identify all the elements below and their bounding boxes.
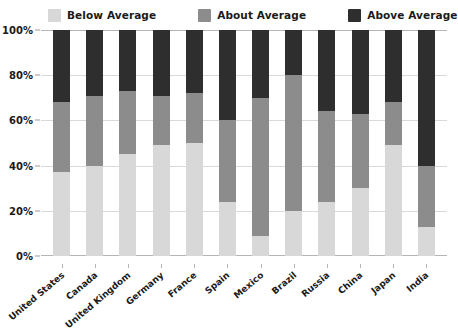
bar-segment-below-average[interactable]	[318, 202, 335, 256]
bar-segment-about-average[interactable]	[352, 114, 369, 189]
bar-segment-about-average[interactable]	[252, 98, 269, 236]
bar-segment-about-average[interactable]	[53, 102, 70, 172]
bar-segment-below-average[interactable]	[385, 145, 402, 256]
bar-segment-about-average[interactable]	[285, 75, 302, 211]
x-axis-label-column: France	[178, 268, 211, 334]
bar-column[interactable]	[377, 30, 410, 256]
chart-legend: Below Average About Average Above Averag…	[48, 4, 444, 26]
bar-segment-below-average[interactable]	[186, 143, 203, 256]
bar-segment-above-average[interactable]	[418, 30, 435, 166]
legend-item-below-average: Below Average	[48, 9, 156, 22]
y-axis-tick-mark	[35, 210, 40, 211]
bar-segment-above-average[interactable]	[186, 30, 203, 93]
stacked-bar[interactable]	[385, 30, 402, 256]
y-axis-tick-mark	[35, 256, 40, 257]
stacked-bar[interactable]	[153, 30, 170, 256]
bar-column[interactable]	[310, 30, 343, 256]
y-axis-tick-mark	[35, 75, 40, 76]
bar-segment-above-average[interactable]	[252, 30, 269, 98]
plot-area-wrapper: 0%20%40%60%80%100%	[0, 30, 452, 270]
stacked-bar[interactable]	[352, 30, 369, 256]
stacked-bar[interactable]	[252, 30, 269, 256]
bar-segment-above-average[interactable]	[219, 30, 236, 120]
stacked-bar[interactable]	[318, 30, 335, 256]
y-axis-tick-label: 100%	[2, 25, 33, 36]
bar-column[interactable]	[410, 30, 443, 256]
bar-segment-below-average[interactable]	[219, 202, 236, 256]
legend-label-about-average: About Average	[217, 9, 306, 21]
legend-swatch-about-average	[198, 9, 211, 22]
bar-segment-below-average[interactable]	[418, 227, 435, 256]
x-axis-label-column: Spain	[211, 268, 244, 334]
y-axis-tick-label: 0%	[16, 251, 33, 262]
legend-item-about-average: About Average	[198, 9, 306, 22]
bar-series-group	[41, 30, 447, 256]
bar-segment-about-average[interactable]	[119, 91, 136, 154]
bar-segment-above-average[interactable]	[119, 30, 136, 91]
bar-segment-above-average[interactable]	[285, 30, 302, 75]
bar-column[interactable]	[277, 30, 310, 256]
legend-swatch-below-average	[48, 9, 61, 22]
y-axis-tick-mark	[35, 120, 40, 121]
bar-segment-above-average[interactable]	[352, 30, 369, 114]
x-axis-tick-label-text: United States	[6, 270, 66, 322]
bar-segment-below-average[interactable]	[53, 172, 70, 256]
x-axis-label-column: Mexico	[244, 268, 277, 334]
x-axis-labels: United StatesCanadaUnited KingdomGermany…	[41, 268, 447, 334]
bar-segment-about-average[interactable]	[153, 96, 170, 146]
legend-label-below-average: Below Average	[67, 9, 156, 21]
bar-segment-below-average[interactable]	[252, 236, 269, 256]
bar-segment-about-average[interactable]	[318, 111, 335, 201]
bar-segment-below-average[interactable]	[352, 188, 369, 256]
bar-column[interactable]	[344, 30, 377, 256]
x-axis-label-column: Japan	[377, 268, 410, 334]
legend-label-above-average: Above Average	[367, 9, 457, 21]
y-axis-tick-label: 40%	[9, 160, 33, 171]
y-axis-tick-label: 60%	[9, 115, 33, 126]
bar-segment-above-average[interactable]	[318, 30, 335, 111]
stacked-bar[interactable]	[86, 30, 103, 256]
bar-segment-about-average[interactable]	[186, 93, 203, 143]
stacked-bar[interactable]	[418, 30, 435, 256]
legend-swatch-above-average	[348, 9, 361, 22]
bar-column[interactable]	[211, 30, 244, 256]
bar-column[interactable]	[145, 30, 178, 256]
bar-column[interactable]	[111, 30, 144, 256]
bar-column[interactable]	[78, 30, 111, 256]
bar-column[interactable]	[45, 30, 78, 256]
y-axis-tick-mark	[35, 30, 40, 31]
x-axis-label-column: China	[344, 268, 377, 334]
bar-column[interactable]	[244, 30, 277, 256]
x-axis-label-column: Brazil	[277, 268, 310, 334]
stacked-bar[interactable]	[119, 30, 136, 256]
stacked-bar[interactable]	[219, 30, 236, 256]
bar-segment-about-average[interactable]	[86, 96, 103, 166]
bar-segment-about-average[interactable]	[385, 102, 402, 145]
bar-segment-above-average[interactable]	[53, 30, 70, 102]
x-axis-label-column: Russia	[310, 268, 343, 334]
y-axis-tick-label: 20%	[9, 205, 33, 216]
y-axis: 0%20%40%60%80%100%	[0, 30, 40, 256]
bar-segment-above-average[interactable]	[153, 30, 170, 96]
x-axis-label-column: India	[410, 268, 443, 334]
legend-item-above-average: Above Average	[348, 9, 457, 22]
bar-segment-above-average[interactable]	[385, 30, 402, 102]
stacked-bar[interactable]	[53, 30, 70, 256]
y-axis-tick-label: 80%	[9, 70, 33, 81]
y-axis-tick-mark	[35, 165, 40, 166]
x-axis-label-column: Germany	[145, 268, 178, 334]
bar-segment-below-average[interactable]	[119, 154, 136, 256]
stacked-bar[interactable]	[285, 30, 302, 256]
bar-segment-about-average[interactable]	[418, 166, 435, 227]
bar-segment-above-average[interactable]	[86, 30, 103, 96]
plot-area	[41, 30, 447, 256]
x-axis-tick-label-text: India	[405, 270, 431, 294]
bar-segment-about-average[interactable]	[219, 120, 236, 201]
